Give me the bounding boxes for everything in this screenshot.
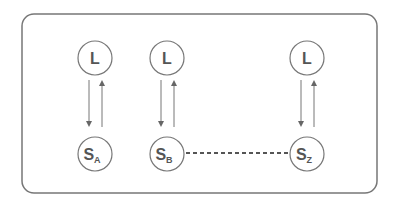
frame bbox=[22, 14, 377, 193]
diagram-canvas: L SA L SB L SZ bbox=[0, 0, 399, 203]
column-b: L SB bbox=[150, 41, 184, 171]
node-l-a-label: L bbox=[90, 50, 100, 67]
node-l-z-label: L bbox=[302, 50, 312, 67]
node-l-b-label: L bbox=[162, 50, 172, 67]
column-z: L SZ bbox=[290, 41, 324, 171]
column-a: L SA bbox=[78, 41, 112, 171]
